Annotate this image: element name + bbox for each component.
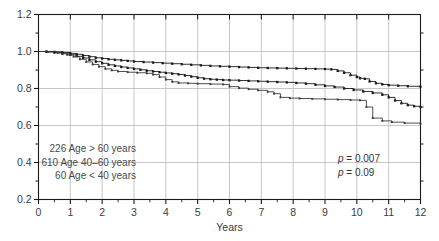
censor-marker — [413, 105, 415, 107]
censor-marker — [388, 84, 390, 86]
censor-marker — [267, 81, 269, 83]
censor-marker — [57, 52, 59, 54]
y-tick-label: 0.2 — [17, 193, 32, 205]
chart-canvas: 0.20.40.60.81.01.20123456789101112Years2… — [0, 0, 439, 241]
censor-marker — [400, 102, 402, 104]
censor-marker — [107, 64, 109, 66]
censor-marker — [273, 93, 275, 95]
censor-marker — [127, 71, 129, 73]
censor-marker — [314, 68, 316, 70]
censor-marker — [95, 57, 97, 59]
censor-marker — [364, 78, 366, 80]
censor-marker — [314, 84, 316, 86]
censor-marker — [388, 96, 390, 98]
censor-marker — [187, 82, 189, 84]
censor-marker — [152, 70, 154, 72]
censor-marker — [152, 61, 154, 63]
censor-marker — [165, 79, 167, 81]
censor-marker — [229, 86, 231, 88]
censor-marker — [381, 94, 383, 96]
x-axis-title: Years — [216, 221, 242, 233]
censor-marker — [222, 83, 224, 85]
censor-marker — [219, 65, 221, 67]
censor-marker — [216, 78, 218, 80]
x-tick-label: 4 — [163, 206, 169, 218]
censor-marker — [162, 62, 164, 64]
censor-marker — [107, 58, 109, 60]
censor-marker — [324, 85, 326, 87]
censor-marker — [178, 82, 180, 84]
censor-marker — [381, 83, 383, 85]
censor-marker — [159, 76, 161, 78]
censor-marker — [47, 51, 49, 53]
censor-marker — [114, 59, 116, 61]
x-tick-label: 0 — [36, 206, 42, 218]
p-value-number: = 0.09 — [344, 167, 375, 178]
censor-marker — [337, 70, 339, 72]
y-tick-label: 1.2 — [17, 8, 32, 20]
censor-marker — [209, 78, 211, 80]
x-tick-label: 8 — [290, 206, 296, 218]
x-tick-label: 6 — [227, 206, 233, 218]
censor-marker — [203, 78, 205, 80]
x-tick-label: 12 — [415, 206, 427, 218]
censor-marker — [289, 97, 291, 99]
x-tick-label: 7 — [258, 206, 264, 218]
censor-marker — [209, 83, 211, 85]
censor-marker — [362, 90, 364, 92]
censor-marker — [238, 66, 240, 68]
censor-marker — [349, 74, 351, 76]
censor-marker — [111, 69, 113, 71]
censor-marker — [404, 122, 406, 124]
censor-marker — [117, 71, 119, 73]
censor-marker — [350, 99, 352, 101]
legend-item-2: 610 Age 40–60 years — [41, 157, 136, 168]
censor-marker — [228, 79, 230, 81]
censor-marker — [139, 69, 141, 71]
censor-marker — [152, 74, 154, 76]
censor-marker — [101, 57, 103, 59]
x-tick-label: 3 — [131, 206, 137, 218]
censor-marker — [247, 80, 249, 82]
legend: 226 Age > 60 years610 Age 40–60 years60 … — [41, 143, 136, 181]
x-tick-label: 9 — [322, 206, 328, 218]
censor-marker — [330, 68, 332, 70]
censor-marker — [171, 81, 173, 83]
censor-marker — [73, 56, 75, 58]
x-tick-label: 1 — [67, 206, 73, 218]
censor-marker — [359, 77, 361, 79]
censor-marker — [190, 76, 192, 78]
censor-marker — [286, 67, 288, 69]
censor-marker — [120, 59, 122, 61]
censor-marker — [190, 64, 192, 66]
censor-marker — [419, 106, 421, 108]
legend-item-1: 226 Age > 60 years — [50, 143, 136, 154]
censor-marker — [79, 58, 81, 60]
censor-marker — [209, 65, 211, 67]
kaplan-meier-chart: 0.20.40.60.81.01.20123456789101112Years2… — [0, 0, 439, 241]
censor-marker — [372, 117, 374, 119]
censor-marker — [126, 60, 128, 62]
censor-marker — [184, 74, 186, 76]
censor-marker — [92, 64, 94, 66]
censor-marker — [200, 64, 202, 66]
censor-marker — [247, 66, 249, 68]
censor-marker — [257, 89, 259, 91]
censor-marker — [136, 72, 138, 74]
censor-marker — [177, 73, 179, 75]
series-1 — [39, 50, 422, 87]
censor-marker — [126, 67, 128, 69]
censor-marker — [88, 59, 90, 61]
y-tick-label: 0.8 — [17, 82, 32, 94]
x-tick-label: 11 — [383, 206, 394, 218]
p-value-secondary: p = 0.09 — [337, 167, 375, 178]
censor-marker — [276, 67, 278, 69]
censor-marker — [420, 123, 422, 125]
censor-marker — [368, 80, 370, 82]
censor-marker — [88, 56, 90, 58]
censor-marker — [286, 81, 288, 83]
censor-marker — [359, 99, 361, 101]
censor-marker — [133, 68, 135, 70]
censor-marker — [394, 99, 396, 101]
censor-marker — [311, 98, 313, 100]
